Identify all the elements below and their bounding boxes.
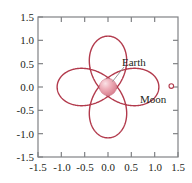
y-tick-label--1.0: -1.0 [0, 129, 34, 140]
y-tick-label-0.0: 0.0 [4, 82, 34, 93]
moon-label: Moon [140, 94, 166, 105]
y-tick-label-1.0: 1.0 [4, 35, 34, 46]
moon-body [169, 84, 174, 89]
y-tick-label--0.5: -0.5 [0, 105, 34, 116]
x-tick-label-1.5: 1.5 [162, 162, 192, 173]
y-tick-label-0.5: 0.5 [4, 59, 34, 70]
earth-label: Earth [122, 57, 146, 68]
y-tick-label-1.5: 1.5 [4, 12, 34, 23]
earth-body [99, 78, 116, 95]
